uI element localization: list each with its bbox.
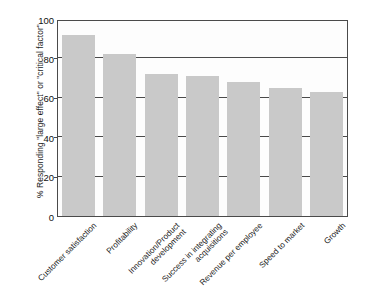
y-tick-label: 80 xyxy=(28,55,54,65)
x-axis-category-labels: Customer satisfactionProfitabilityInnova… xyxy=(57,217,348,299)
y-axis-ticks: 020406080100 xyxy=(24,20,54,217)
y-tick-label: 40 xyxy=(28,134,54,144)
plot-area xyxy=(57,20,348,217)
y-tick-label: 0 xyxy=(28,213,54,223)
bar[interactable] xyxy=(269,88,302,216)
bar[interactable] xyxy=(186,76,219,216)
y-tick-label: 60 xyxy=(28,94,54,104)
bar-chart-figure: % Responding "large effect" or "critical… xyxy=(0,0,367,299)
bar[interactable] xyxy=(145,74,178,216)
y-tick-label: 100 xyxy=(28,16,54,26)
bar[interactable] xyxy=(62,35,95,216)
y-tick-label: 20 xyxy=(28,173,54,183)
bar[interactable] xyxy=(227,82,260,216)
bar[interactable] xyxy=(103,54,136,216)
bar[interactable] xyxy=(310,92,343,216)
bars-series xyxy=(58,21,347,216)
x-category-label: Customer satisfaction xyxy=(7,221,99,299)
